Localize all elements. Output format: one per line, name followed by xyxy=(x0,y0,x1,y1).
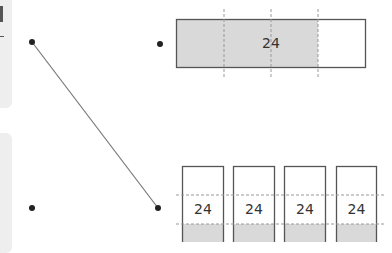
bottom-bar-shaded xyxy=(233,224,275,242)
bottom-bar-label: 24 xyxy=(284,201,326,217)
dot-top-left[interactable] xyxy=(29,39,35,45)
bottom-bar-shaded xyxy=(182,224,224,242)
top-bar-label: 24 xyxy=(247,35,295,51)
bottom-bar-label: 24 xyxy=(182,201,224,217)
bottom-bar-shaded xyxy=(336,224,377,242)
connector-line xyxy=(32,42,158,208)
dot-top-right[interactable] xyxy=(157,41,163,47)
bottom-bar-shaded xyxy=(284,224,326,242)
bottom-bar-label: 24 xyxy=(233,201,275,217)
bottom-bar-label: 24 xyxy=(336,201,377,217)
dot-bottom-right[interactable] xyxy=(155,205,161,211)
dot-bottom-left[interactable] xyxy=(29,205,35,211)
